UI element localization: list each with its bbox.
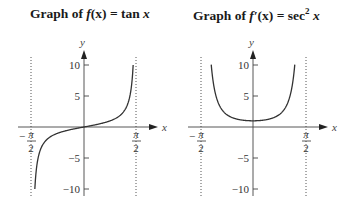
- svg-text:π: π: [133, 128, 139, 140]
- left-x-label: x: [161, 121, 167, 133]
- right-xtick-neg-pi-half: − π 2: [189, 128, 206, 154]
- svg-text:2: 2: [133, 142, 139, 154]
- left-ytick-10: 10: [69, 59, 81, 71]
- left-ytick-m10: −10: [63, 183, 81, 195]
- right-ytick-m10: −10: [232, 183, 250, 195]
- charts-canvas: x y 10 5 −5 −10 − π 2 π 2 x: [0, 0, 352, 205]
- right-ytick-5: 5: [244, 90, 250, 102]
- svg-text:2: 2: [28, 142, 34, 154]
- svg-text:2: 2: [303, 142, 309, 154]
- right-x-label: x: [331, 121, 337, 133]
- right-y-label: y: [248, 36, 254, 48]
- left-y-label: y: [79, 36, 85, 48]
- right-x-arrow-icon: [319, 124, 328, 130]
- svg-text:−: −: [189, 130, 195, 142]
- right-ytick-m5: −5: [237, 152, 249, 164]
- left-chart: x y 10 5 −5 −10 − π 2 π 2: [18, 36, 167, 196]
- right-chart: x y 10 5 −5 −10 − π 2 π 2: [188, 36, 337, 196]
- svg-text:π: π: [28, 128, 34, 140]
- left-ytick-5: 5: [75, 90, 81, 102]
- left-xtick-neg-pi-half: − π 2: [19, 128, 36, 154]
- svg-text:π: π: [303, 128, 309, 140]
- svg-text:−: −: [19, 130, 25, 142]
- right-y-arrow-icon: [250, 50, 256, 59]
- svg-text:2: 2: [198, 142, 204, 154]
- left-xtick-pi-half: π 2: [132, 128, 141, 154]
- left-x-arrow-icon: [149, 124, 158, 130]
- svg-text:π: π: [198, 128, 204, 140]
- left-y-arrow-icon: [81, 50, 87, 59]
- left-ytick-m5: −5: [68, 152, 80, 164]
- right-xtick-pi-half: π 2: [302, 128, 311, 154]
- right-ytick-10: 10: [238, 59, 250, 71]
